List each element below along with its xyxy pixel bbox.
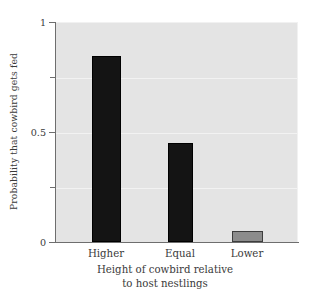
y-tick-mark-1 (49, 22, 56, 23)
y-axis-title-container: Probability that cowbird gets fed (0, 0, 26, 262)
y-tick-mark-0-75 (50, 77, 56, 78)
x-axis-title: Height of cowbird relative to host nestl… (30, 263, 300, 290)
y-tick-label-0-box: 0 (26, 236, 46, 248)
x-tick-label-higher: Higher (66, 246, 146, 260)
y-tick-label-0-5: 0.5 (31, 127, 46, 138)
y-tick-label-0-5-box: 0.5 (26, 126, 46, 138)
bar-chart-figure: Probability that cowbird gets fed 1 0.5 … (0, 0, 314, 302)
bar-lower (232, 231, 263, 242)
y-tick-mark-0 (49, 242, 56, 243)
y-tick-mark-0-25 (50, 187, 56, 188)
y-tick-label-1-box: 1 (26, 16, 46, 28)
x-axis-title-line1: Height of cowbird relative (97, 264, 233, 275)
bar-higher (92, 56, 121, 242)
x-axis-line (55, 242, 299, 243)
plot-area (55, 22, 298, 242)
x-tick-label-lower: Lower (208, 246, 286, 260)
y-axis-title: Probability that cowbird gets fed (8, 53, 19, 210)
y-tick-label-0: 0 (40, 237, 46, 248)
x-tick-label-equal: Equal (142, 246, 218, 260)
x-axis-title-line2: to host nestlings (30, 277, 300, 291)
y-tick-mark-0-5 (49, 132, 56, 133)
y-tick-label-1: 1 (40, 17, 46, 28)
bar-equal (168, 143, 193, 242)
